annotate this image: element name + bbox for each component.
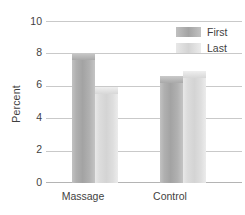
y-axis-tick-labels: 10 8 6 4 2 0 [16, 0, 42, 215]
y-tick-label: 10 [16, 16, 42, 27]
bar-cap [72, 53, 95, 60]
bar-control-last [183, 71, 206, 183]
gridline-10 [46, 21, 242, 22]
y-tick-label: 4 [16, 112, 42, 123]
y-tick-label: 0 [16, 177, 42, 188]
y-tick-label: 8 [16, 47, 42, 58]
bar-massage-last [95, 87, 118, 183]
bar-chart: Percent 10 8 6 4 2 0 Massage Control [0, 0, 245, 215]
legend-item-last: Last [176, 41, 227, 55]
legend-swatch-last-icon [176, 43, 201, 53]
bar-control-first [160, 76, 183, 183]
legend: First Last [176, 25, 227, 57]
bar-cap [183, 71, 206, 78]
legend-label-last: Last [207, 43, 227, 54]
bar-massage-first [72, 53, 95, 183]
x-tick-label-massage: Massage [38, 190, 128, 202]
x-tick-label-control: Control [125, 190, 215, 202]
y-tick-label: 2 [16, 144, 42, 155]
legend-swatch-first-icon [176, 27, 201, 37]
y-tick-label: 6 [16, 79, 42, 90]
bar-cap [95, 87, 118, 94]
bar-cap [160, 76, 183, 83]
legend-label-first: First [207, 27, 227, 38]
legend-item-first: First [176, 25, 227, 39]
